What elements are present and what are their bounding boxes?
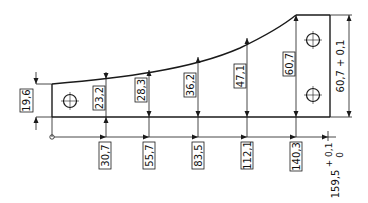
- label-x-2: 55,7: [144, 144, 155, 166]
- label-total-length: 159,5: [330, 170, 341, 199]
- label-total-tol-upper: + 0,1: [324, 143, 334, 168]
- station-2: 28,3 55,7: [135, 70, 155, 169]
- label-total-tol-lower: 0: [335, 152, 345, 158]
- label-height-3: 36,2: [185, 74, 196, 96]
- label-x-1: 30,7: [100, 144, 111, 166]
- label-height-4: 47,1: [235, 65, 246, 87]
- label-left-height: 19,6: [21, 89, 32, 111]
- label-x-4: 112,1: [242, 141, 253, 170]
- right-bottom-hole: [304, 86, 322, 104]
- right-top-hole: [304, 31, 322, 49]
- label-right-height: 60,7 + 0,1: [335, 40, 346, 93]
- dimension-total-length: + 0,1 0 159,5: [322, 131, 345, 198]
- left-hole: [61, 92, 79, 110]
- station-5: 60,7 140,3: [283, 15, 302, 171]
- technical-drawing: 19,6 23,2 30,7 28,3 55,7 36,2 8: [0, 0, 368, 203]
- station-4: 47,1 112,1: [234, 38, 253, 170]
- label-x-5: 140,3: [291, 142, 302, 171]
- label-height-2: 28,3: [136, 79, 147, 101]
- label-x-3: 83,5: [193, 144, 204, 166]
- dimension-right-height: 60,7 + 0,1: [330, 15, 352, 117]
- label-height-1: 23,2: [94, 87, 105, 109]
- station-3: 36,2 83,5: [184, 57, 204, 169]
- label-height-5: 60,7: [284, 53, 295, 75]
- station-1: 23,2 30,7: [93, 72, 111, 169]
- dimension-left-height: 19,6: [20, 72, 52, 130]
